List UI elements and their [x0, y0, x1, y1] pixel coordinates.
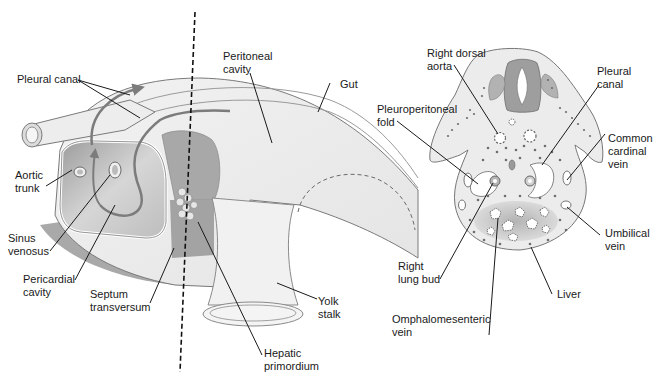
label-umbilical-vein-line1: Umbilical [605, 227, 650, 239]
label-omphalomesenteric-vein-line1: Omphalomesenteric [392, 313, 491, 325]
label-pleuroperitoneal-fold-line2: fold [377, 116, 395, 128]
label-aortic-trunk-line2: trunk [15, 182, 40, 194]
umbilical-vein-left [561, 201, 571, 209]
sagittal-view: Pleural canal Peritoneal cavity Gut Aort… [8, 12, 418, 372]
label-common-cardinal-vein-line2: cardinal [608, 145, 647, 157]
label-peritoneal-cavity-line1: Peritoneal [223, 50, 273, 62]
left-dorsal-aorta [524, 130, 536, 142]
label-pericardial-cavity-line2: cavity [23, 286, 52, 298]
label-hepatic-primordium-line1: Hepatic [264, 347, 302, 359]
label-right-lung-bud-line2: lung bud [398, 273, 440, 285]
label-hepatic-primordium-line2: primordium [264, 360, 319, 372]
pericardial-cavity-shape [60, 141, 166, 238]
right-lung-bud-lumen [493, 179, 497, 183]
label-right-dorsal-aorta-line2: aorta [427, 60, 453, 72]
yolk-stalk-shape [208, 198, 298, 305]
label-common-cardinal-vein-line3: vein [608, 158, 628, 170]
label-omphalomesenteric-vein-line2: vein [392, 326, 412, 338]
aortic-trunk-lumen [77, 170, 83, 175]
aorta-lumen [26, 127, 38, 143]
common-cardinal-vein-right [464, 173, 472, 187]
label-aortic-trunk-line1: Aortic [15, 169, 44, 181]
label-pleural-canal-right-line2: canal [597, 78, 623, 90]
label-pericardial-cavity-line1: Pericardial [23, 273, 75, 285]
label-yolk-stalk-line2: stalk [318, 308, 341, 320]
label-sinus-venosus-line2: venosus [8, 245, 49, 257]
label-gut: Gut [340, 78, 358, 90]
label-sinus-venosus-line1: Sinus [8, 232, 36, 244]
left-lung-bud-lumen [528, 179, 532, 183]
label-right-lung-bud-line1: Right [398, 260, 424, 272]
right-dorsal-aorta [495, 133, 506, 144]
label-yolk-stalk-line1: Yolk [318, 295, 339, 307]
yolk-stalk-opening [203, 302, 303, 326]
sinus-venosus-lumen [112, 165, 118, 175]
label-umbilical-vein-line2: vein [605, 240, 625, 252]
label-common-cardinal-vein-line1: Common [608, 132, 653, 144]
umbilical-vein-right [459, 200, 466, 210]
label-pleural-canal-right-line1: Pleural [597, 65, 631, 77]
gut-tube [509, 160, 515, 170]
label-pleural-canal: Pleural canal [17, 73, 81, 85]
embryo-diagram: Pleural canal Peritoneal cavity Gut Aort… [0, 0, 657, 381]
label-septum-transversum-line2: transversum [90, 301, 151, 313]
label-right-dorsal-aorta-line1: Right dorsal [427, 47, 486, 59]
label-septum-transversum-line1: Septum [90, 288, 128, 300]
label-peritoneal-cavity-line2: cavity [223, 63, 252, 75]
septum-dark-lower [170, 200, 214, 258]
notochord [509, 119, 515, 125]
common-cardinal-vein-left [563, 171, 571, 185]
label-pleuroperitoneal-fold-line1: Pleuroperitoneal [377, 103, 457, 115]
label-liver: Liver [557, 288, 581, 300]
